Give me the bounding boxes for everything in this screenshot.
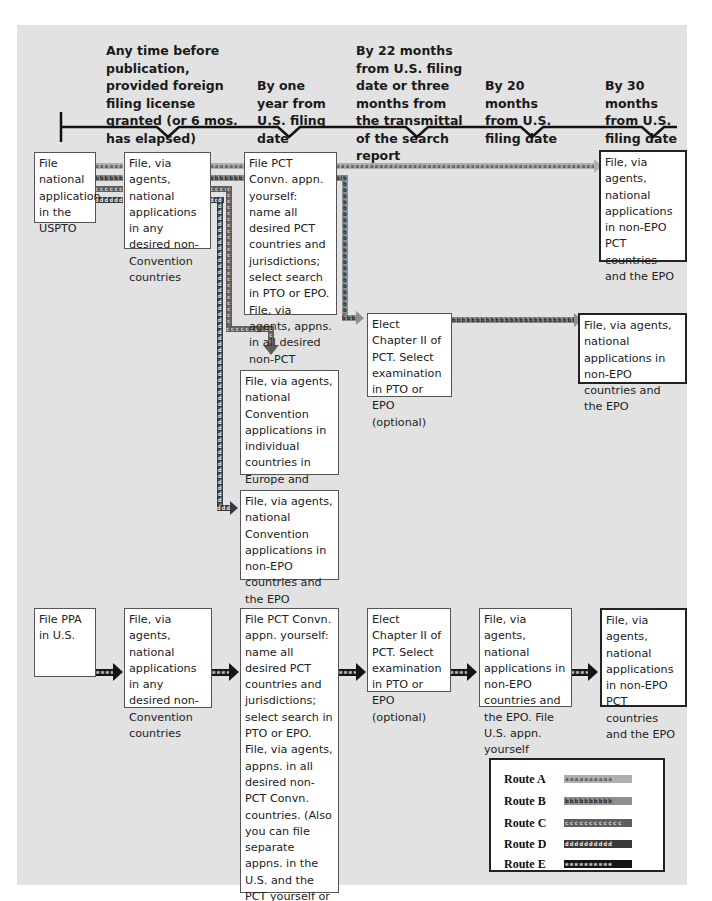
route-e-arrow-icon [588, 663, 598, 681]
box-file-pct-top: File PCT Convn. appn. yourself: name all… [244, 152, 337, 315]
box-file-convention-non-epo: File, via agents, national Convention ap… [240, 490, 339, 580]
route-e-arrow-icon [356, 663, 366, 681]
route-b-line: bbbbbbbbbbbbbbbbbbbbbbbbbbbbbbbbbbbbbbbb… [452, 317, 574, 323]
legend-swatch-route-b: bbbbbbbbbb [564, 797, 632, 805]
box-file-non-convention-bottom: File, via agents, national applications … [124, 608, 212, 708]
route-b-line: bbbbbbbbbbbbbbbbbbbbbbbbbbbbbbbbbbbbbbbb… [210, 175, 244, 181]
legend-item-route-b: Route B bbbbbbbbbb [491, 794, 663, 808]
route-e-arrow-icon [229, 663, 239, 681]
route-e-arrow-icon [113, 663, 123, 681]
route-b-arrow-icon [356, 311, 364, 325]
route-e-line: eeeeeeeeeeeeeeeeeeeeeeeeeeeeeeeeeeeeeeee… [96, 669, 114, 676]
legend-swatch-route-a: aaaaaaaaaa [564, 775, 632, 783]
box-file-national-uspto: File national application in the USPTO [34, 152, 96, 223]
route-d-arrow-icon [230, 501, 238, 515]
legend-label: Route D [504, 837, 546, 851]
box-file-ppa: File PPA in U.S. [34, 608, 96, 677]
legend-item-route-d: Route D dddddddddd [491, 837, 663, 851]
legend-item-route-c: Route C cccccccccccc [491, 816, 663, 830]
box-file-non-epo-pct-bottom: File, via agents, national applications … [600, 608, 687, 707]
route-a-line: aaaaaaaaaaaaaaaaaaaaaaaaaaaaaaaaaaaaaaaa… [210, 163, 244, 169]
legend-label: Route E [504, 857, 546, 871]
route-e-line: eeeeeeeeeeeeeeeeeeeeeeeeeeeeeeeeeeeeeeee… [450, 669, 468, 676]
box-file-convention-europe: File, via agents, national Convention ap… [240, 370, 339, 475]
route-a-line: aaaaaaaaaaaaaaaaaaaaaaaaaaaaaaaaaaaaaaaa… [336, 163, 594, 169]
box-file-non-epo-countries-mid: File, via agents, national applications … [578, 313, 687, 384]
route-d-line: dddddddddddddddddddddddddddddddddddddddd… [217, 197, 223, 511]
box-file-non-epo-pct-top: File, via agents, national applications … [599, 150, 687, 262]
legend-label: Route C [504, 816, 546, 830]
legend-label: Route A [504, 772, 546, 786]
box-elect-chapter-ii-bottom: Elect Chapter II of PCT. Select examinat… [367, 608, 451, 692]
legend: Route A aaaaaaaaaa Route B bbbbbbbbbb Ro… [489, 758, 665, 872]
box-elect-chapter-ii-top: Elect Chapter II of PCT. Select examinat… [367, 313, 452, 397]
route-e-line: eeeeeeeeeeeeeeeeeeeeeeeeeeeeeeeeeeeeeeee… [339, 669, 357, 676]
route-e-line: eeeeeeeeeeeeeeeeeeeeeeeeeeeeeeeeeeeeeeee… [212, 669, 230, 676]
route-c-line: cccccccccccccccccccccccccccccccccccccccc… [226, 186, 232, 330]
box-file-non-epo-us-bottom: File, via agents, national applications … [479, 608, 572, 707]
route-b-line: bbbbbbbbbbbbbbbbbbbbbbbbbbbbbbbbbbbbbbbb… [342, 175, 348, 321]
route-e-arrow-icon [467, 663, 477, 681]
route-a-line: aaaaaaaaaaaaaaaaaaaaaaaaaaaaaaaaaaaaaaaa… [95, 163, 123, 169]
legend-swatch-route-d: dddddddddd [564, 840, 632, 848]
route-b-line: bbbbbbbbbbbbbbbbbbbbbbbbbbbbbbbbbbbbbbbb… [95, 175, 123, 181]
route-d-line: dddddddddddddddddddddddddddddddddddddddd… [217, 505, 230, 511]
legend-swatch-route-c: cccccccccccc [564, 819, 632, 827]
legend-item-route-e: Route E eeeeeeeeee [491, 857, 663, 871]
route-e-line: eeeeeeeeeeeeeeeeeeeeeeeeeeeeeeeeeeeeeeee… [571, 669, 589, 676]
legend-item-route-a: Route A aaaaaaaaaa [491, 772, 663, 786]
box-file-pct-bottom: File PCT Convn. appn. yourself: name all… [240, 608, 339, 893]
legend-swatch-route-e: eeeeeeeeee [564, 860, 632, 868]
legend-label: Route B [504, 794, 546, 808]
box-file-non-convention-top: File, via agents, national applications … [124, 152, 211, 249]
route-b-line: bbbbbbbbbbbbbbbbbbbbbbbbbbbbbbbbbbbbbbbb… [342, 315, 356, 321]
